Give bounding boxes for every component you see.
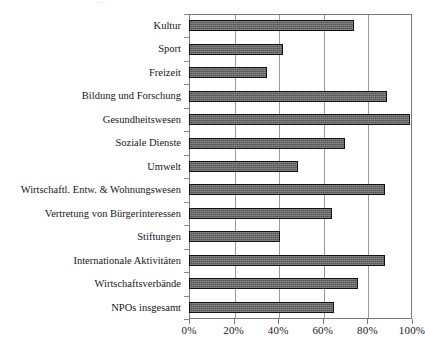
bar xyxy=(189,138,345,149)
bar-row xyxy=(189,155,412,178)
y-axis-tick xyxy=(184,131,189,132)
category-label: Wirtschaftl. Entw. & Wohnungswesen xyxy=(0,178,185,201)
bar-row xyxy=(189,178,412,201)
x-axis-tick-label: 100% xyxy=(399,324,425,336)
category-label: Freizeit xyxy=(0,61,185,84)
y-axis-tick xyxy=(184,61,189,62)
bar-row xyxy=(189,14,412,37)
bar-row xyxy=(189,84,412,107)
x-axis-tick-label: 0% xyxy=(181,324,196,336)
bars-container xyxy=(189,14,412,319)
category-label: Soziale Dienste xyxy=(0,131,185,154)
y-axis-tick xyxy=(184,14,189,15)
category-label: Vertretung von Bürgerinteressen xyxy=(0,202,185,225)
bar xyxy=(189,278,358,289)
y-axis-tick xyxy=(184,84,189,85)
category-label: NPOs insgesamt xyxy=(0,296,185,319)
category-label: Gesundheitswesen xyxy=(0,108,185,131)
bar xyxy=(189,255,385,266)
category-axis-labels: KulturSportFreizeitBildung und Forschung… xyxy=(0,14,185,319)
y-axis-tick xyxy=(184,178,189,179)
y-axis-tick xyxy=(184,37,189,38)
category-label: Stiftungen xyxy=(0,225,185,248)
x-axis-tick-label: 80% xyxy=(357,324,378,336)
bar-row xyxy=(189,202,412,225)
bar xyxy=(189,44,283,55)
bar-row xyxy=(189,296,412,319)
top-artifact-text: ..... xyxy=(96,0,107,5)
x-axis-tick-label: 20% xyxy=(223,324,244,336)
x-axis-tick-label: 40% xyxy=(268,324,289,336)
category-label: Wirtschaftsverbände xyxy=(0,272,185,295)
y-axis-tick xyxy=(184,319,189,320)
bar-row xyxy=(189,37,412,60)
y-axis-tick xyxy=(184,155,189,156)
y-axis-tick xyxy=(184,202,189,203)
category-label: Sport xyxy=(0,37,185,60)
bar xyxy=(189,67,267,78)
bar-row xyxy=(189,225,412,248)
bar-row xyxy=(189,249,412,272)
category-label: Kultur xyxy=(0,14,185,37)
bar xyxy=(189,302,334,313)
x-axis-tick-label: 60% xyxy=(312,324,333,336)
bar xyxy=(189,231,280,242)
bar xyxy=(189,208,332,219)
bar xyxy=(189,91,387,102)
x-axis-tick-labels: 0%20%40%60%80%100% xyxy=(0,324,423,344)
y-axis-tick xyxy=(184,108,189,109)
y-axis-tick xyxy=(184,296,189,297)
category-label: Umwelt xyxy=(0,155,185,178)
bar-row xyxy=(189,108,412,131)
bar xyxy=(189,20,354,31)
bar-row xyxy=(189,61,412,84)
category-label: Bildung und Forschung xyxy=(0,84,185,107)
bar xyxy=(189,161,298,172)
y-axis-tick xyxy=(184,272,189,273)
bar xyxy=(189,184,385,195)
y-axis-tick xyxy=(184,249,189,250)
bar xyxy=(189,114,410,125)
y-axis-tick xyxy=(184,225,189,226)
category-label: Internationale Aktivitäten xyxy=(0,249,185,272)
bar-row xyxy=(189,131,412,154)
bar-row xyxy=(189,272,412,295)
